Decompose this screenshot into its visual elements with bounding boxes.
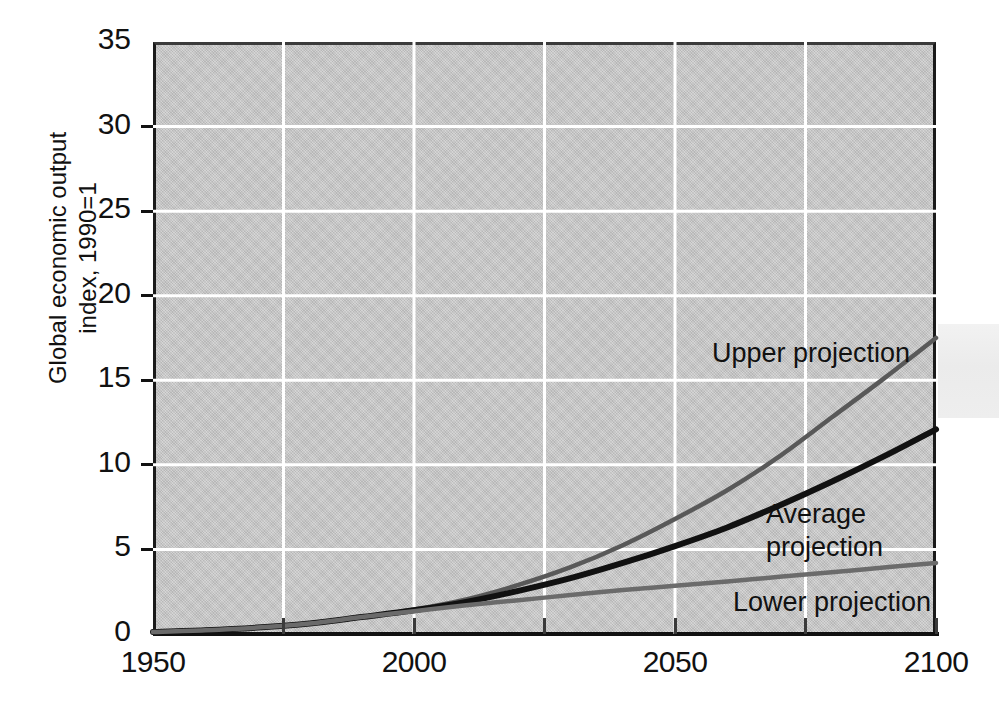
y-tick-mark <box>141 294 153 297</box>
x-tick-mark <box>413 618 416 634</box>
y-tick-label: 0 <box>0 614 131 648</box>
x-tick-label: 2050 <box>643 645 708 679</box>
annotation-average-projection: Average projection <box>766 498 883 564</box>
x-tick-label: 1950 <box>121 645 186 679</box>
y-tick-label: 10 <box>0 445 131 479</box>
y-tick-mark <box>141 210 153 213</box>
x-tick-mark <box>543 618 546 634</box>
y-tick-label: 5 <box>0 529 131 563</box>
y-tick-mark <box>141 463 153 466</box>
y-tick-label: 35 <box>0 22 131 56</box>
y-tick-mark <box>141 548 153 551</box>
y-axis-title: Global economic output index, 1990=1 <box>43 103 103 413</box>
x-tick-mark <box>674 618 677 634</box>
annotation-lower-projection: Lower projection <box>733 586 931 619</box>
x-tick-mark <box>282 618 285 634</box>
y-tick-mark <box>141 125 153 128</box>
x-tick-label: 2000 <box>382 645 447 679</box>
y-tick-mark <box>141 379 153 382</box>
y-axis-title-line-1: Global economic output <box>43 103 73 413</box>
x-tick-mark <box>804 618 807 634</box>
annotation-upper-projection: Upper projection <box>712 337 910 370</box>
annotation-average-line-1: Average <box>766 499 866 529</box>
annotation-average-line-2: projection <box>766 532 883 562</box>
x-tick-label: 2100 <box>904 645 969 679</box>
y-axis-title-line-2: index, 1990=1 <box>73 103 103 413</box>
scan-artifact <box>938 324 999 418</box>
chart-figure: 05101520253035 1950200020502100 Global e… <box>0 0 999 710</box>
x-tick-mark <box>935 618 938 634</box>
